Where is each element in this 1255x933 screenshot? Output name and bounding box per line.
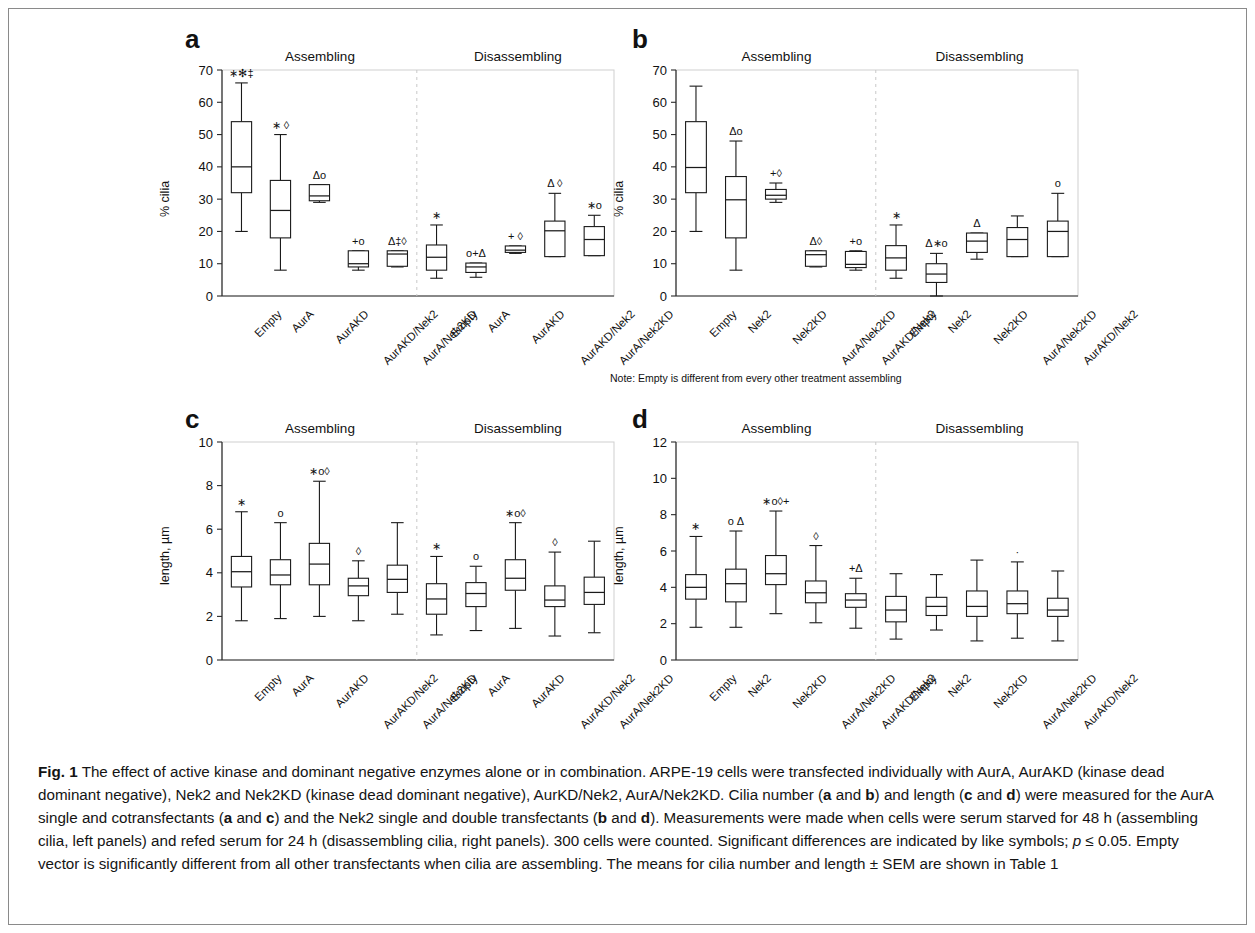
x-tick-label: AurAKD [529, 308, 567, 346]
box [886, 596, 907, 621]
boxplot-b-6: Δ∗o [925, 237, 947, 296]
significance-symbol: o [473, 550, 479, 562]
significance-symbol: +◊ [770, 167, 782, 179]
boxplot-d-3: ◊ [805, 530, 826, 623]
y-tick-label: 20 [199, 224, 213, 239]
significance-symbol: ∗o◊ [309, 465, 330, 477]
panel-b-y-axis-title: % cilia [612, 181, 626, 217]
boxplot-c-8: ◊ [545, 536, 565, 636]
box [505, 560, 525, 591]
boxplot-d-0: ∗ [686, 520, 707, 627]
x-tick-label: AurA [485, 308, 512, 335]
significance-symbol: ∗ [432, 209, 441, 221]
box [1047, 598, 1068, 616]
group-title-right: Disassembling [474, 421, 562, 436]
box [967, 591, 988, 616]
y-tick-label: 10 [199, 256, 213, 271]
boxplot-c-0: ∗ [231, 496, 251, 621]
box [1047, 221, 1068, 257]
boxplot-b-8 [1007, 216, 1028, 257]
significance-symbol: ◊ [813, 530, 819, 542]
significance-symbol: Δ ◊ [547, 177, 563, 189]
boxplot-c-9 [584, 541, 604, 633]
y-tick-label: 0 [660, 289, 667, 304]
significance-symbol: ◊ [356, 545, 362, 557]
panel-b-plot: 010203040506070AssemblingDisassemblingΔo… [630, 44, 1102, 310]
boxplot-d-6 [926, 575, 947, 630]
x-tick-label: AurAKD [333, 672, 371, 710]
y-tick-label: 10 [199, 435, 213, 450]
x-tick-label: AurAKD [333, 308, 371, 346]
y-tick-label: 50 [199, 127, 213, 142]
box [584, 577, 604, 604]
y-tick-label: 12 [653, 435, 667, 450]
boxplot-d-8: · [1007, 546, 1028, 638]
significance-symbol: · [1016, 546, 1020, 558]
y-tick-label: 40 [199, 159, 213, 174]
y-tick-label: 30 [199, 192, 213, 207]
boxplot-c-2: ∗o◊ [309, 465, 330, 616]
x-tick-label: Empty [707, 672, 739, 704]
box [726, 177, 747, 238]
boxplot-a-9: ∗o [584, 199, 604, 255]
significance-symbol: ∗ [237, 496, 246, 508]
y-tick-label: 10 [653, 471, 667, 486]
significance-symbol: ∗ [432, 540, 441, 552]
significance-symbol: ∗o [587, 199, 602, 211]
y-tick-label: 8 [206, 478, 213, 493]
significance-symbol: ∗ ◊ [272, 119, 290, 131]
panel-b-note: Note: Empty is different from every othe… [610, 372, 902, 384]
significance-symbol: Δ‡◊ [388, 235, 407, 247]
boxplot-d-1: o Δ [726, 515, 747, 627]
significance-symbol: +o [850, 235, 863, 247]
y-tick-label: 10 [653, 256, 667, 271]
panel-d-plot: 024681012AssemblingDisassembling∗o Δ∗o◊+… [630, 416, 1102, 674]
box [967, 233, 988, 252]
box [1007, 228, 1028, 257]
boxplot-a-7: + ◊ [505, 230, 525, 253]
box [805, 581, 826, 603]
x-tick-label: AurA [290, 672, 317, 699]
boxplot-b-5: ∗ [886, 209, 907, 278]
box [505, 246, 525, 252]
box [270, 560, 290, 585]
y-tick-label: 70 [653, 63, 667, 78]
significance-symbol: o [1055, 177, 1061, 189]
boxplot-c-7: ∗o◊ [505, 507, 526, 629]
significance-symbol: ∗ [892, 209, 901, 221]
boxplot-a-2: Δo [309, 169, 329, 203]
panel-d-y-axis-title: length, µm [612, 526, 626, 585]
boxplot-c-5: ∗ [426, 540, 446, 634]
boxplot-b-3: Δ◊ [805, 235, 826, 267]
x-tick-label: Nek2 [946, 672, 973, 699]
boxplot-d-9 [1047, 571, 1068, 641]
significance-symbol: Δo [729, 125, 742, 137]
box [726, 569, 747, 602]
y-tick-label: 60 [653, 95, 667, 110]
significance-symbol: Δ∗o [925, 237, 947, 249]
figure-caption: Fig. 1 The effect of active kinase and d… [38, 760, 1218, 875]
boxplot-d-2: ∗o◊+ [762, 495, 789, 614]
x-tick-label: Nek2 [946, 308, 973, 335]
box [231, 122, 251, 193]
boxplot-a-6: o+Δ [466, 247, 487, 277]
box [805, 251, 826, 266]
boxplot-b-7: Δ [967, 217, 988, 259]
group-title-right: Disassembling [474, 49, 562, 64]
panel-a-plot: 010203040506070AssemblingDisassembling∗✻… [176, 44, 638, 310]
group-title-left: Assembling [742, 421, 812, 436]
boxplot-d-4: +Δ [845, 562, 866, 628]
box [348, 251, 368, 267]
box [545, 586, 565, 607]
box [348, 578, 368, 595]
panel-a-y-axis-title: % cilia [158, 181, 172, 217]
x-tick-label: Empty [448, 672, 480, 704]
significance-symbol: +o [352, 235, 365, 247]
y-tick-label: 60 [199, 95, 213, 110]
y-tick-label: 0 [206, 653, 213, 668]
boxplot-d-7 [967, 560, 988, 641]
y-tick-label: 0 [206, 289, 213, 304]
boxplot-c-6: o [466, 550, 486, 630]
boxplot-a-5: ∗ [426, 209, 446, 278]
x-tick-label: Nek2KD [790, 672, 829, 711]
